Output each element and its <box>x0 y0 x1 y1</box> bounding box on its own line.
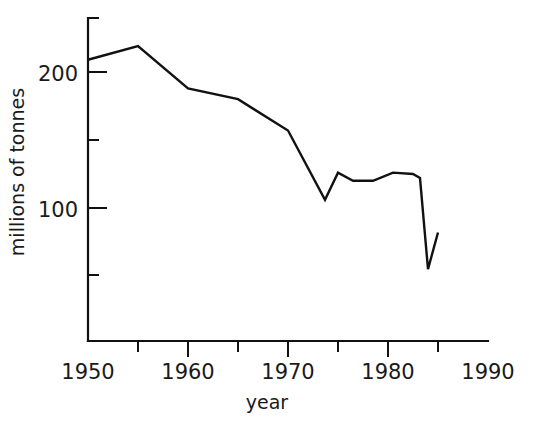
y-tick-label-200: 200 <box>38 62 78 86</box>
chart-page: 200 100 1950 1960 1970 1980 1990 year mi… <box>0 0 534 423</box>
x-tick-label-1980: 1980 <box>361 360 414 384</box>
x-tick-label-1950: 1950 <box>61 360 114 384</box>
x-tick-label-1960: 1960 <box>161 360 214 384</box>
y-tick-label-100: 100 <box>38 198 78 222</box>
data-series-line <box>88 46 438 269</box>
x-axis-ticks <box>138 341 438 357</box>
line-chart: 200 100 1950 1960 1970 1980 1990 year mi… <box>0 0 534 423</box>
x-tick-label-1970: 1970 <box>261 360 314 384</box>
y-axis-title: millions of tonnes <box>6 88 28 256</box>
x-tick-label-1990: 1990 <box>461 360 514 384</box>
x-axis-title: year <box>246 391 289 413</box>
